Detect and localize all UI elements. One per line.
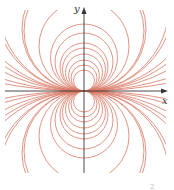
- curve-family: [0, 0, 174, 190]
- y-axis-arrow-icon: [82, 7, 87, 14]
- corner-mark: 2: [150, 183, 154, 190]
- circle-family-diagram: x y 2: [0, 0, 174, 190]
- x-axis-label: x: [162, 95, 168, 106]
- x-axis-arrow-icon: [161, 89, 168, 94]
- lower-large-circle: [0, 91, 174, 190]
- lower-large-circle: [0, 91, 169, 190]
- y-axis-label: y: [73, 3, 80, 14]
